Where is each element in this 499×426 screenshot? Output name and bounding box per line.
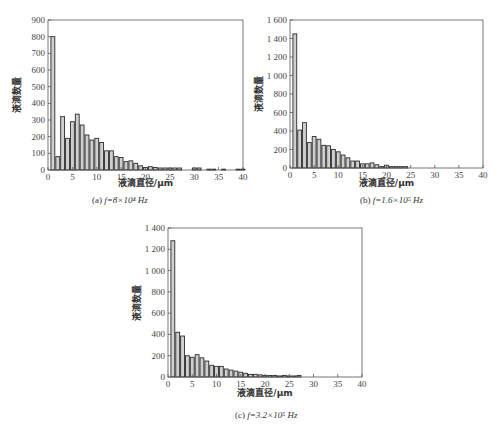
y-tick-label: 400 <box>152 329 166 339</box>
x-tick-label: 30 <box>309 379 319 389</box>
y-axis-title-c: 液滴数量 <box>131 285 142 321</box>
caption-b: (b) f=1.6×10⁵ Hz <box>360 195 423 205</box>
x-tick-label: 10 <box>212 379 222 389</box>
y-tick-label: 600 <box>152 308 166 318</box>
caption-a-prefix: (a) <box>92 195 102 205</box>
caption-b-prefix: (b) <box>360 195 371 205</box>
bar <box>219 366 223 377</box>
bar <box>234 371 238 377</box>
x-axis-title-c: 液滴直径/μm <box>237 387 292 398</box>
bar <box>195 355 199 377</box>
bar <box>185 356 189 377</box>
bar <box>200 358 204 377</box>
y-tick-label: 0 <box>161 372 166 382</box>
y-tick-label: 1 200 <box>145 244 166 254</box>
caption-b-formula: f=1.6×10⁵ Hz <box>373 195 423 205</box>
caption-a: (a) f=8×10⁴ Hz <box>92 195 148 205</box>
chart-svg-c: 051015202530354002004006008001 0001 2001… <box>0 0 499 426</box>
caption-c: (c) f=3.2×10⁵ Hz <box>235 410 298 420</box>
x-tick-label: 40 <box>358 379 368 389</box>
y-tick-label: 200 <box>152 351 166 361</box>
caption-a-formula: f=8×10⁴ Hz <box>104 195 148 205</box>
caption-c-formula: f=3.2×10⁵ Hz <box>247 410 297 420</box>
x-tick-label: 5 <box>190 379 195 389</box>
bar <box>210 365 214 377</box>
x-tick-label: 0 <box>166 379 171 389</box>
bar <box>205 361 209 377</box>
caption-c-prefix: (c) <box>235 410 245 420</box>
chart-panel-c: 051015202530354002004006008001 0001 2001… <box>0 0 499 426</box>
y-tick-label: 1 400 <box>145 223 166 233</box>
bar <box>176 332 180 377</box>
bars-c <box>171 241 301 377</box>
x-tick-label: 35 <box>333 379 343 389</box>
bar <box>224 369 228 377</box>
bar <box>244 373 248 377</box>
y-tick-label: 800 <box>152 287 166 297</box>
bar <box>229 370 233 377</box>
y-tick-label: 1 000 <box>145 266 166 276</box>
bar <box>171 241 175 377</box>
bar <box>181 336 185 377</box>
